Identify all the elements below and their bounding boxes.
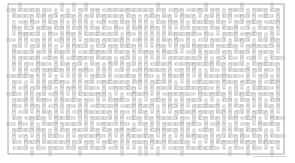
maze-wall (193, 123, 201, 125)
maze-wall (151, 105, 153, 113)
maze-wall (109, 33, 117, 35)
maze-wall (13, 93, 21, 95)
maze-wall (211, 69, 219, 71)
maze-wall (97, 45, 105, 47)
maze-wall (175, 129, 177, 137)
maze-wall (157, 129, 159, 137)
maze-wall (109, 123, 117, 125)
maze-wall (103, 117, 111, 119)
maze-wall (85, 69, 87, 77)
maze-wall (127, 141, 129, 149)
maze-wall (55, 135, 63, 137)
maze-wall (91, 87, 99, 89)
maze-wall (79, 45, 87, 47)
maze-wall (13, 27, 15, 35)
maze-wall (49, 69, 51, 77)
maze-wall (55, 147, 63, 149)
maze-wall (175, 21, 177, 29)
maze-wall (229, 57, 237, 59)
maze-wall (121, 99, 129, 101)
maze-wall (97, 147, 105, 149)
maze-wall (37, 147, 45, 149)
maze-wall (241, 27, 249, 29)
maze-wall (31, 129, 33, 137)
maze-wall (205, 87, 213, 89)
maze-wall (223, 141, 225, 149)
maze-wall (265, 45, 273, 47)
maze-wall (193, 69, 195, 77)
maze-wall (163, 141, 165, 149)
maze-wall (67, 117, 75, 119)
maze-wall (187, 51, 195, 53)
maze-grid (0, 0, 295, 163)
maze-wall (277, 123, 279, 131)
maze-wall (265, 111, 267, 119)
maze-wall (151, 39, 153, 47)
maze-wall (61, 69, 63, 77)
maze-wall (169, 105, 171, 113)
maze-wall (163, 51, 165, 59)
maze-wall (169, 51, 177, 53)
maze-wall (235, 147, 243, 149)
maze-wall (145, 93, 147, 101)
maze-wall (151, 51, 153, 59)
maze-wall (163, 87, 171, 89)
maze-wall (193, 57, 201, 59)
maze-wall (19, 147, 27, 149)
maze-wall (73, 129, 75, 137)
maze-wall (103, 27, 111, 29)
maze-puzzle (0, 0, 295, 163)
maze-wall (163, 105, 165, 113)
maze-wall (13, 141, 21, 143)
maze-wall (235, 75, 243, 77)
maze-wall (217, 123, 219, 131)
maze-wall (43, 63, 51, 65)
maze-wall (31, 75, 33, 83)
maze-wall (253, 99, 255, 107)
maze-wall (253, 69, 255, 77)
maze-wall (67, 87, 69, 95)
maze-wall (49, 111, 51, 119)
maze-wall (133, 129, 141, 131)
maze-wall (199, 39, 207, 41)
maze-wall (253, 147, 261, 149)
maze-wall (205, 135, 207, 143)
maze-wall (67, 147, 75, 149)
maze-wall (61, 39, 63, 47)
maze-wall (277, 27, 279, 35)
maze-wall (115, 87, 117, 95)
maze-wall (217, 27, 219, 35)
maze-wall (13, 63, 15, 71)
maze-wall (169, 117, 177, 119)
faint-credit-text (253, 155, 287, 158)
maze-wall (145, 39, 147, 47)
maze-wall (67, 69, 69, 77)
maze-wall (187, 99, 189, 107)
maze-wall (157, 81, 165, 83)
maze-wall (103, 51, 111, 53)
maze-wall (241, 39, 243, 47)
maze-wall (187, 93, 195, 95)
maze-wall (31, 105, 33, 113)
maze-wall (115, 69, 123, 71)
maze-wall (277, 45, 279, 53)
maze-wall (73, 123, 81, 125)
credit-line (253, 155, 287, 158)
maze-wall (265, 141, 267, 149)
maze-wall (79, 33, 81, 41)
maze-wall (97, 75, 105, 77)
maze-wall (265, 87, 273, 89)
maze-wall (193, 33, 201, 35)
maze-wall (133, 141, 135, 149)
maze-wall (151, 87, 153, 95)
maze-wall (235, 9, 243, 11)
maze-wall (181, 75, 183, 83)
maze-wall (211, 147, 219, 149)
maze-wall (31, 33, 39, 35)
maze-wall (25, 27, 33, 29)
maze-walls (7, 3, 285, 155)
maze-wall (103, 93, 105, 101)
maze-wall (25, 51, 33, 53)
maze-wall (115, 129, 117, 137)
maze-wall (205, 45, 213, 47)
